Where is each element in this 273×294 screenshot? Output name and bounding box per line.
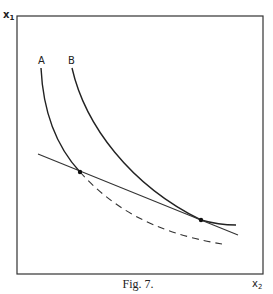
curve-a [41,68,80,172]
budget-line [38,154,238,235]
plot-frame [17,16,263,274]
curve-a-label: A [38,55,45,66]
curve-a-dashed [80,172,222,244]
figure-caption: Fig. 7. [122,277,153,291]
x-axis-label: x2 [252,278,262,291]
y-axis-label: x1 [3,9,14,22]
intersection-point-a [78,170,82,174]
tangency-point-b [199,218,203,222]
curve-b-label: B [68,55,75,66]
figure-diagram: x1 x2 A B Fig. 7. [0,0,273,294]
